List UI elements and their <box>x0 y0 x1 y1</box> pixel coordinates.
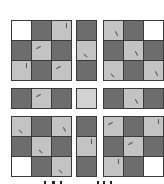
tile-cell <box>104 157 123 176</box>
stroke-mark <box>56 66 61 69</box>
tile-cell <box>124 89 143 108</box>
tile-cell <box>12 21 31 40</box>
tile-cell <box>144 21 163 40</box>
tile-cell <box>32 89 51 108</box>
tile-cell <box>12 117 31 136</box>
caption-clipped <box>0 180 164 184</box>
tile-cell <box>32 137 51 156</box>
caption-glyph <box>44 181 46 184</box>
tile-cell <box>124 21 143 40</box>
tile-cell <box>32 61 51 80</box>
stroke-mark <box>110 73 114 77</box>
tile-cell <box>52 137 71 156</box>
caption-glyph <box>97 181 99 184</box>
stroke-mark <box>115 31 118 36</box>
tile-cell <box>144 137 163 156</box>
tile-cell <box>12 157 31 176</box>
stroke-mark <box>58 169 62 173</box>
tile-cell <box>144 117 163 136</box>
stroke-mark <box>26 63 27 68</box>
tile-cell <box>52 157 71 176</box>
caption-glyph <box>110 181 112 184</box>
caption-glyph <box>60 181 62 184</box>
stroke-mark <box>36 46 41 49</box>
tile-cell <box>104 89 123 108</box>
tile-cell <box>77 61 96 80</box>
tile-cell <box>144 41 163 60</box>
tile-block-top-left <box>11 20 72 81</box>
tile-cell <box>12 89 31 108</box>
tile-cell <box>52 117 71 136</box>
tile-cell <box>12 61 31 80</box>
tile-block-top-right <box>103 20 164 81</box>
stroke-mark <box>38 149 42 153</box>
tile-cell <box>104 117 123 136</box>
tile-block-top-middle <box>76 20 97 81</box>
tile-cell <box>124 61 143 80</box>
stroke-mark <box>155 71 158 76</box>
tile-cell <box>124 117 143 136</box>
stroke-mark <box>108 122 113 125</box>
tile-cell <box>144 61 163 80</box>
tile-cell <box>124 137 143 156</box>
tile-cell <box>77 89 96 108</box>
tile-block-bottom-right <box>103 116 164 177</box>
tile-cell <box>32 21 51 40</box>
tile-cell <box>77 117 96 136</box>
tile-cell <box>52 41 71 60</box>
tile-cell <box>77 157 96 176</box>
caption-glyph <box>103 181 105 184</box>
tile-block-bottom-left <box>11 116 72 177</box>
tile-cell <box>12 137 31 156</box>
tile-cell <box>104 61 123 80</box>
tile-cell <box>32 41 51 60</box>
tile-cell <box>52 61 71 80</box>
stroke-mark <box>158 119 159 124</box>
tile-cell <box>52 21 71 40</box>
tile-block-middle-left <box>11 88 72 109</box>
tile-cell <box>32 157 51 176</box>
stroke-mark <box>66 23 67 28</box>
tile-cell <box>52 89 71 108</box>
tile-cell <box>12 41 31 60</box>
stroke-mark <box>83 53 87 57</box>
tile-cell <box>124 157 143 176</box>
tile-cell <box>144 157 163 176</box>
tile-cell <box>77 41 96 60</box>
stroke-mark <box>36 94 41 97</box>
stroke-mark <box>118 159 119 164</box>
tile-cell <box>104 137 123 156</box>
tile-cell <box>104 21 123 40</box>
stroke-mark <box>135 51 138 56</box>
tile-cell <box>124 41 143 60</box>
tile-cell <box>32 117 51 136</box>
caption-glyph <box>52 181 55 184</box>
stroke-mark <box>91 139 92 144</box>
stroke-mark <box>128 142 133 145</box>
stroke-mark <box>18 129 22 133</box>
tile-cell <box>77 137 96 156</box>
stroke-mark <box>63 127 66 132</box>
tile-cell <box>104 41 123 60</box>
tile-cell <box>144 89 163 108</box>
tile-block-center <box>76 88 97 109</box>
tile-cell <box>77 21 96 40</box>
stroke-mark <box>135 99 138 104</box>
tile-block-middle-right <box>103 88 164 109</box>
tile-block-bottom-middle <box>76 116 97 177</box>
